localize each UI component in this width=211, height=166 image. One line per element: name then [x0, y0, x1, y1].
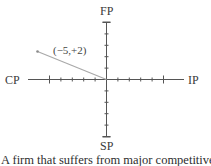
axis-label-bottom: SP [100, 140, 113, 152]
axis-label-top: FP [100, 5, 113, 17]
vector-point [36, 50, 39, 53]
axis-label-right: IP [188, 74, 199, 86]
axis-label-left: CP [5, 74, 20, 86]
figure-caption: A firm that suffers from major competiti… [1, 153, 211, 166]
vector-label: (−5,+2) [53, 45, 86, 56]
